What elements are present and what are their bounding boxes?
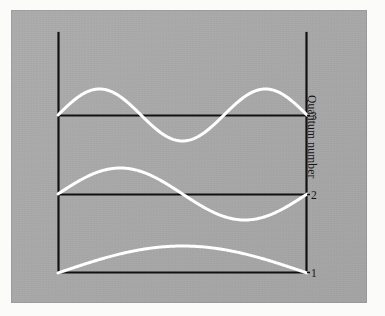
particle-in-a-box-plot	[0, 0, 385, 316]
wavefunction-curves	[58, 89, 307, 273]
wavefunction-n1-curve	[58, 246, 307, 273]
y-tick-label-3: 3	[311, 110, 317, 122]
box-walls	[59, 33, 307, 273]
figure-root: Quantum number 3 2 1	[0, 0, 385, 316]
y-tick-label-1: 1	[311, 267, 317, 279]
y-tick-label-2: 2	[311, 189, 317, 201]
